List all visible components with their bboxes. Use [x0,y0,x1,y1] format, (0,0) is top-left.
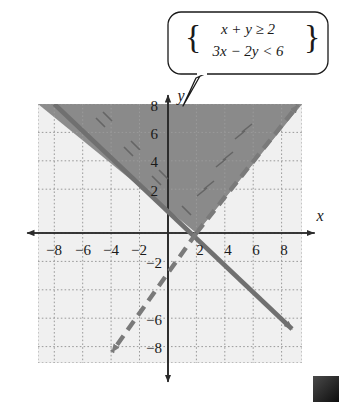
ytick-2: 2 [151,183,159,199]
inequality-callout: { } x + y ≥ 2 3x − 2y < 6 [168,12,328,74]
xtick--4: −4 [103,242,119,258]
callout-tail [183,74,205,106]
figure-canvas: −8 −6 −4 −2 2 4 6 8 8 6 4 2 −2 −6 −8 x y… [0,0,343,406]
corner-mark [313,376,339,402]
y-axis-label: y [175,87,185,105]
x-axis-label: x [315,207,323,224]
xtick-2: 2 [196,242,204,258]
xtick-6: 6 [252,242,260,258]
ytick--2: −2 [146,255,162,271]
ytick--6: −6 [146,312,162,328]
inequality-line-2: 3x − 2y < 6 [168,43,328,60]
ytick-4: 4 [151,154,159,170]
inequality-line-1: x + y ≥ 2 [168,21,328,38]
ytick-6: 6 [151,126,159,142]
ytick-8: 8 [151,98,159,114]
xtick-8: 8 [280,242,288,258]
xtick-4: 4 [224,242,232,258]
xtick--2: −2 [131,242,147,258]
xtick--8: −8 [46,242,62,258]
xtick--6: −6 [75,242,91,258]
ytick--8: −8 [146,340,162,356]
